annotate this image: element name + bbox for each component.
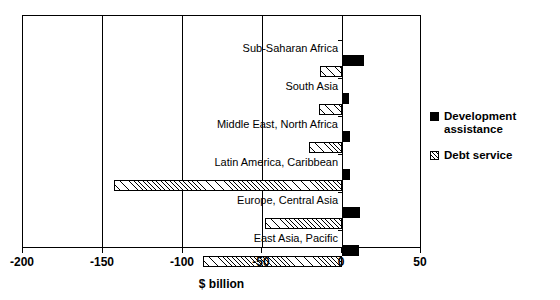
- category-label: Middle East, North Africa: [217, 118, 341, 131]
- bar-group-row: East Asia, Pacific: [23, 230, 420, 269]
- bar-debt-service: [265, 218, 342, 229]
- bar-debt-service: [319, 104, 342, 115]
- bar-development-assistance: [342, 131, 350, 142]
- legend-item-debt-service: Debt service: [430, 149, 555, 162]
- plot-area: Sub-Saharan Africa South Asia Middle Eas…: [22, 15, 421, 248]
- category-label: East Asia, Pacific: [254, 232, 341, 245]
- axis-tick-label: 0: [338, 255, 345, 269]
- axis-tick--50: [261, 248, 262, 253]
- category-label: Latin America, Caribbean: [214, 156, 341, 169]
- axis-tick-0: [341, 248, 342, 253]
- category-tick: [338, 78, 343, 79]
- bar-group-row: Middle East, North Africa: [23, 116, 420, 155]
- category-tick: [338, 40, 343, 41]
- bar-debt-service: [203, 256, 342, 267]
- bar-group-row: Latin America, Caribbean: [23, 154, 420, 193]
- axis-tick-label: -150: [90, 255, 114, 269]
- bar-development-assistance: [342, 207, 360, 218]
- bar-development-assistance: [342, 93, 349, 104]
- axis-tick-50: [420, 248, 421, 253]
- bar-debt-service: [309, 142, 342, 153]
- legend-swatch-solid-square-icon: [430, 112, 439, 121]
- category-tick: [338, 154, 343, 155]
- category-label: Europe, Central Asia: [237, 194, 341, 207]
- bar-group-row: South Asia: [23, 78, 420, 117]
- category-tick: [338, 192, 343, 193]
- axis-tick--150: [102, 248, 103, 253]
- legend-label: Debt service: [444, 149, 512, 162]
- chart-legend: Development assistance Debt service: [430, 110, 555, 175]
- category-tick: [338, 116, 343, 117]
- bar-chart: Sub-Saharan Africa South Asia Middle Eas…: [0, 0, 560, 300]
- bar-group-row: Europe, Central Asia: [23, 192, 420, 231]
- category-label: South Asia: [285, 80, 341, 93]
- axis-tick-label: -50: [252, 255, 269, 269]
- bar-debt-service: [114, 180, 342, 191]
- legend-label: Development assistance: [444, 110, 555, 136]
- axis-tick--100: [182, 248, 183, 253]
- axis-tick--200: [22, 248, 23, 253]
- bar-debt-service: [320, 66, 342, 77]
- category-label: Sub-Saharan Africa: [243, 42, 341, 55]
- category-tick: [338, 230, 343, 231]
- axis-tick-label: -200: [10, 255, 34, 269]
- legend-item-development-assistance: Development assistance: [430, 110, 555, 136]
- axis-tick-label: -100: [170, 255, 194, 269]
- bar-development-assistance: [342, 55, 364, 66]
- bar-group-row: Sub-Saharan Africa: [23, 40, 420, 79]
- bar-development-assistance: [342, 169, 350, 180]
- x-axis-title: $ billion: [0, 277, 443, 291]
- legend-swatch-hatched-square-icon: [430, 151, 439, 160]
- axis-tick-label: 50: [413, 255, 426, 269]
